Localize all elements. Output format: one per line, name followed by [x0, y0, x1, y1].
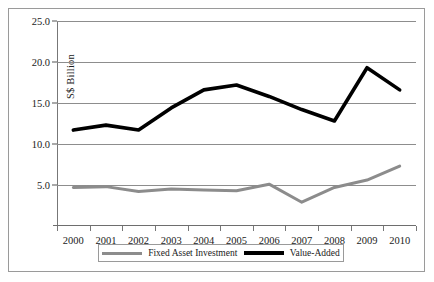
- x-tick-mark: [57, 226, 58, 231]
- x-tick-mark: [416, 226, 417, 231]
- x-tick-mark: [90, 226, 91, 231]
- x-tick-mark: [285, 226, 286, 231]
- legend-swatch: [244, 251, 284, 255]
- figure-frame: S$ Billion 5.010.015.020.025.0 200020012…: [8, 8, 425, 272]
- legend-swatch: [102, 252, 142, 255]
- y-tick-label: 10.0: [32, 139, 50, 150]
- x-tick-mark: [188, 226, 189, 231]
- series-lines: [57, 21, 416, 226]
- x-tick-mark: [383, 226, 384, 231]
- y-tick-label: 5.0: [37, 180, 50, 191]
- chart-legend: Fixed Asset InvestmentValue-Added: [98, 244, 344, 262]
- legend-label: Fixed Asset Investment: [148, 248, 237, 258]
- x-tick-label: 2000: [63, 235, 84, 246]
- y-tick-label: 25.0: [32, 16, 50, 27]
- x-tick-mark: [122, 226, 123, 231]
- x-tick-label: 2010: [389, 235, 410, 246]
- plot-area: S$ Billion 5.010.015.020.025.0 200020012…: [57, 21, 416, 226]
- y-tick-label: 20.0: [32, 57, 50, 68]
- legend-label: Value-Added: [290, 248, 340, 258]
- legend-entry: Value-Added: [244, 248, 340, 258]
- series-line: [73, 166, 399, 202]
- x-tick-label: 2009: [357, 235, 378, 246]
- x-tick-mark: [155, 226, 156, 231]
- x-tick-mark: [351, 226, 352, 231]
- x-tick-mark: [253, 226, 254, 231]
- y-tick-label: 15.0: [32, 98, 50, 109]
- series-line: [73, 68, 399, 130]
- x-tick-mark: [318, 226, 319, 231]
- x-tick-mark: [220, 226, 221, 231]
- legend-entry: Fixed Asset Investment: [102, 248, 237, 258]
